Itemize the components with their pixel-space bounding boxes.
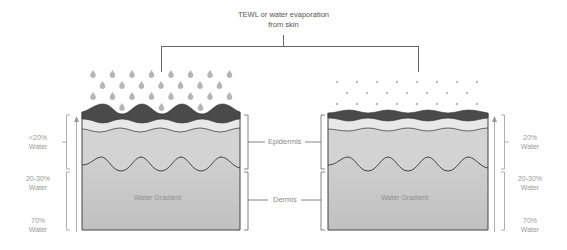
small-dot-icon <box>436 81 438 83</box>
water-gradient-label-left: Water Gradient <box>134 194 181 201</box>
water-drop-icon <box>178 81 184 89</box>
small-dot-icon <box>396 81 398 83</box>
water-drop-icon <box>227 92 233 100</box>
layer-brackets <box>244 115 325 230</box>
water-pct: 20-30% <box>18 174 58 183</box>
water-unit: Water <box>510 225 550 234</box>
water-level-left-top: <20% Water <box>18 133 58 151</box>
water-drop-icon <box>207 70 213 78</box>
skin-block-left <box>82 104 240 230</box>
water-pct: 20% <box>510 133 550 142</box>
water-drop-icon <box>149 70 155 78</box>
water-drop-icon <box>139 81 145 89</box>
water-pct: <20% <box>18 133 58 142</box>
water-drop-icon <box>149 92 155 100</box>
small-dot-icon <box>456 81 458 83</box>
water-drop-icon <box>110 70 116 78</box>
water-drop-icon <box>90 70 96 78</box>
water-drop-icon <box>198 103 204 111</box>
water-drop-icon <box>119 103 125 111</box>
water-level-right-bottom: 70% Water <box>510 216 550 234</box>
water-unit: Water <box>510 183 550 192</box>
water-drop-icon <box>207 92 213 100</box>
evaporation-title: TEWL or water evaporation from skin <box>0 10 567 30</box>
water-unit: Water <box>18 142 58 151</box>
water-level-left-mid: 20-30% Water <box>18 174 58 192</box>
small-dot-icon <box>366 92 368 94</box>
small-dot-icon <box>456 103 458 105</box>
water-level-left-bottom: 70% Water <box>18 216 58 234</box>
small-dot-icon <box>336 103 338 105</box>
water-drop-icon <box>217 81 223 89</box>
small-dot-icon <box>466 92 468 94</box>
small-dot-icon <box>376 103 378 105</box>
small-dot-icon <box>416 103 418 105</box>
small-dot-icon <box>386 92 388 94</box>
small-dot-icon <box>426 92 428 94</box>
title-line-1: TEWL or water evaporation <box>0 10 567 20</box>
water-drop-icon <box>90 92 96 100</box>
water-drop-icon <box>129 92 135 100</box>
water-droplets-heavy <box>90 70 232 111</box>
small-dot-icon <box>336 81 338 83</box>
water-drop-icon <box>159 103 165 111</box>
water-dots-light <box>336 81 478 105</box>
water-drop-icon <box>168 92 174 100</box>
water-drop-icon <box>158 81 164 89</box>
small-dot-icon <box>446 92 448 94</box>
small-dot-icon <box>406 92 408 94</box>
water-level-right-mid: 20-30% Water <box>510 174 550 192</box>
water-level-right-top: 20% Water <box>510 133 550 151</box>
water-unit: Water <box>18 225 58 234</box>
water-scale-left <box>62 115 79 232</box>
small-dot-icon <box>346 92 348 94</box>
small-dot-icon <box>476 103 478 105</box>
water-unit: Water <box>18 183 58 192</box>
water-drop-icon <box>227 70 233 78</box>
water-pct: 70% <box>510 216 550 225</box>
epidermis-label: Epidermis <box>266 137 303 146</box>
skin-block-right <box>328 110 488 230</box>
small-dot-icon <box>356 81 358 83</box>
title-line-2: from skin <box>0 20 567 30</box>
water-drop-icon <box>197 81 203 89</box>
water-drop-icon <box>100 81 106 89</box>
dermis-label: Dermis <box>271 195 299 204</box>
water-pct: 20-30% <box>510 174 550 183</box>
water-pct: 70% <box>18 216 58 225</box>
small-dot-icon <box>476 81 478 83</box>
small-dot-icon <box>356 103 358 105</box>
skin-diagram <box>0 0 567 250</box>
connector-lines <box>161 35 419 72</box>
water-drop-icon <box>129 70 135 78</box>
water-drop-icon <box>188 92 194 100</box>
water-drop-icon <box>119 81 125 89</box>
small-dot-icon <box>416 81 418 83</box>
water-unit: Water <box>510 142 550 151</box>
water-drop-icon <box>168 70 174 78</box>
water-drop-icon <box>188 70 194 78</box>
water-drop-icon <box>110 92 116 100</box>
small-dot-icon <box>376 81 378 83</box>
small-dot-icon <box>436 103 438 105</box>
water-gradient-label-right: Water Gradient <box>381 194 428 201</box>
small-dot-icon <box>396 103 398 105</box>
water-scale-right <box>492 115 509 232</box>
